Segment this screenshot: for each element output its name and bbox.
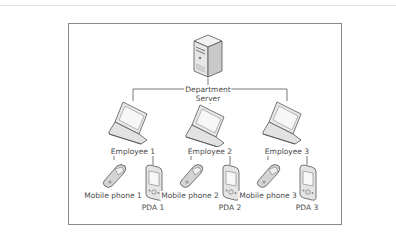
pda-2-label: PDA 2 — [218, 203, 242, 212]
laptop-icon — [107, 100, 157, 146]
mobile-phone-3-label: Mobile phone 3 — [238, 191, 298, 200]
employee-3-label: Employee 3 — [264, 147, 310, 156]
laptop-icon — [261, 100, 311, 146]
mobile-phone-icon — [101, 163, 129, 189]
mobile-phone-icon — [178, 163, 206, 189]
pda-1-label: PDA 1 — [141, 203, 165, 212]
pda-3-label: PDA 3 — [295, 203, 319, 212]
server-label-line1: Department — [184, 85, 231, 94]
laptop-icon — [184, 103, 234, 149]
mobile-phone-2-label: Mobile phone 2 — [160, 191, 220, 200]
mobile-phone-icon — [255, 163, 283, 189]
pda-icon — [297, 164, 319, 202]
employee-2-label: Employee 2 — [187, 147, 233, 156]
server-label-line2: Server — [195, 94, 222, 103]
employee-1-label: Employee 1 — [110, 147, 156, 156]
mobile-phone-1-label: Mobile phone 1 — [83, 191, 143, 200]
server-tower-icon — [190, 33, 226, 79]
